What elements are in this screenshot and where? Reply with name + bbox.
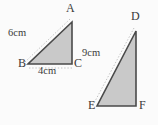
vertex-label-f: F (139, 99, 146, 111)
triangle-abc-shape (28, 22, 72, 64)
vertex-label-e: E (88, 99, 95, 111)
measure-label-ba: 6cm (8, 28, 26, 39)
geometry-figure: A B C D E F 6cm 4cm 9cm (0, 0, 158, 125)
vertex-label-d: D (131, 10, 140, 22)
vertex-label-c: C (74, 57, 82, 69)
vertex-label-a: A (66, 2, 75, 14)
triangle-def-shape (97, 31, 136, 106)
measure-label-bc: 4cm (38, 66, 56, 77)
measure-label-ed: 9cm (82, 48, 100, 59)
vertex-label-b: B (18, 57, 26, 69)
